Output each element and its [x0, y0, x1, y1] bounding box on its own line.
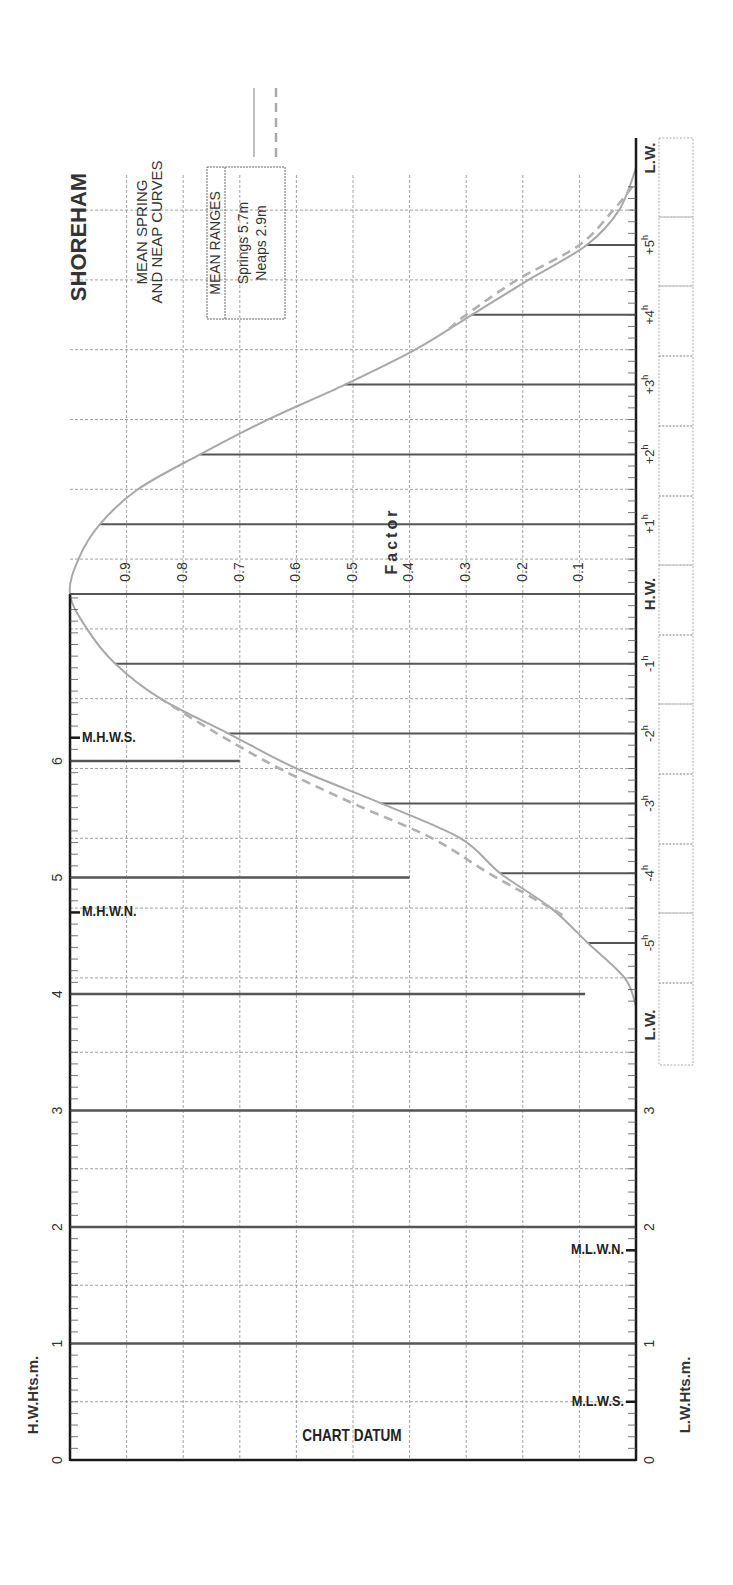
hw-height-label: 3 [49, 1106, 65, 1114]
time-tick-label: -5h [640, 935, 657, 952]
mhwn-label: M.H.W.N. [82, 902, 136, 919]
time-tick-label: -4h [640, 865, 657, 882]
lw-height-label: 3 [641, 1106, 657, 1114]
lw-top-label: L.W. [641, 143, 658, 174]
time-tick-label: -3h [640, 795, 657, 812]
time-entry-box[interactable] [659, 356, 693, 426]
hw-label: H.W. [641, 578, 658, 611]
time-tick-label: +4h [640, 305, 657, 325]
factor-tick-label: 0.6 [287, 562, 303, 582]
factor-tick-label: 0.3 [457, 562, 473, 582]
hw-height-label: 2 [49, 1223, 65, 1231]
time-entry-box[interactable] [659, 496, 693, 565]
factor-tick-label: 0.1 [570, 562, 586, 582]
time-entry-box[interactable] [659, 774, 693, 844]
time-entry-box[interactable] [659, 217, 693, 286]
tidal-curve-chart: SHOREHAMMEAN SPRINGAND NEAP CURVESMEAN R… [0, 0, 733, 1585]
lw-bottom-label: L.W. [641, 1010, 658, 1041]
time-entry-box[interactable] [659, 635, 693, 704]
chart-title: SHOREHAM [66, 173, 91, 301]
mean-ranges-header: MEAN RANGES [207, 191, 223, 294]
neap-curve-falling [449, 182, 636, 329]
neap-curve-rising [161, 699, 563, 915]
lw-height-label: 2 [641, 1223, 657, 1231]
factor-gridlines [127, 175, 580, 1460]
chart-datum-label: CHART DATUM [302, 1427, 401, 1444]
factor-tick-label: 0.9 [117, 562, 133, 582]
time-entry-boxes [659, 138, 693, 1065]
lw-heights-axis-title: L.W.Hts.m. [676, 1357, 693, 1434]
time-entry-box[interactable] [659, 565, 693, 635]
time-tick-label: -2h [640, 725, 657, 742]
time-entry-box[interactable] [659, 704, 693, 774]
time-tick-label: -1h [640, 656, 657, 673]
hw-height-label: 1 [49, 1339, 65, 1347]
factor-tick-label: 0.8 [174, 562, 190, 582]
time-entry-box[interactable] [659, 138, 693, 217]
time-tick-label: +3h [640, 375, 657, 395]
time-tick-label: +2h [640, 444, 657, 464]
hw-height-label: 6 [49, 757, 65, 765]
lw-height-label: 0 [641, 1456, 657, 1464]
time-tick-label: +1h [640, 514, 657, 534]
hw-heights-axis-title: H.W.Hts.m. [24, 1356, 41, 1434]
mlwn-label: M.L.W.N. [571, 1240, 624, 1257]
neaps-range: Neaps 2.9m [253, 205, 269, 280]
factor-axis-title: Factor [383, 508, 400, 575]
mlws-label: M.L.W.S. [572, 1392, 624, 1409]
springs-range: Springs 5.7m [235, 202, 251, 284]
time-entry-box[interactable] [659, 844, 693, 913]
lw-height-label: 1 [641, 1339, 657, 1347]
hw-height-label: 0 [49, 1456, 65, 1464]
time-entry-box[interactable] [659, 426, 693, 496]
factor-tick-label: 0.5 [344, 562, 360, 582]
mhws-label: M.H.W.S. [82, 728, 136, 745]
factor-tick-label: 0.7 [231, 562, 247, 582]
time-entry-box[interactable] [659, 286, 693, 356]
time-entry-box[interactable] [659, 913, 693, 983]
hw-height-label: 5 [49, 873, 65, 881]
hw-height-label: 4 [49, 990, 65, 998]
factor-tick-label: 0.4 [400, 562, 416, 582]
time-tick-label: +5h [640, 235, 657, 255]
subtitle-line2: AND NEAP CURVES [148, 161, 165, 304]
factor-tick-label: 0.2 [514, 562, 530, 582]
time-entry-box[interactable] [659, 983, 693, 1065]
